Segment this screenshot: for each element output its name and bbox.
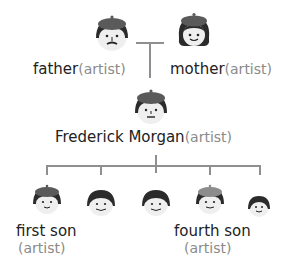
parent-connector-vertical (149, 42, 151, 78)
child-3-avatar-icon (139, 186, 173, 220)
children-connector-stem (155, 155, 157, 173)
subject-avatar-icon (131, 86, 171, 126)
child-drop-1 (46, 165, 48, 175)
mother-name: mother (170, 60, 225, 78)
subject-label: Frederick Morgan(artist) (55, 128, 232, 146)
child-drop-5 (259, 165, 261, 175)
father-avatar-icon (92, 12, 132, 52)
father-name: father (33, 60, 78, 78)
mother-role: (artist) (225, 61, 272, 77)
children-connector-bar (46, 165, 261, 167)
child-1-avatar-icon (30, 182, 64, 216)
child-5-avatar-icon (245, 192, 273, 220)
subject-role: (artist) (185, 129, 232, 145)
child-4-avatar-icon (193, 182, 227, 216)
father-role: (artist) (78, 61, 125, 77)
mother-label: mother(artist) (170, 60, 272, 78)
child-1-name: first son (16, 222, 77, 240)
child-1-role: (artist) (18, 240, 65, 256)
child-2-avatar-icon (84, 186, 118, 220)
child-4-role: (artist) (184, 240, 231, 256)
subject-name: Frederick Morgan (55, 128, 185, 146)
mother-avatar-icon (174, 10, 214, 50)
father-label: father(artist) (33, 60, 126, 78)
child-4-name: fourth son (174, 222, 251, 240)
child-drop-4 (209, 165, 211, 175)
child-drop-2 (100, 165, 102, 175)
